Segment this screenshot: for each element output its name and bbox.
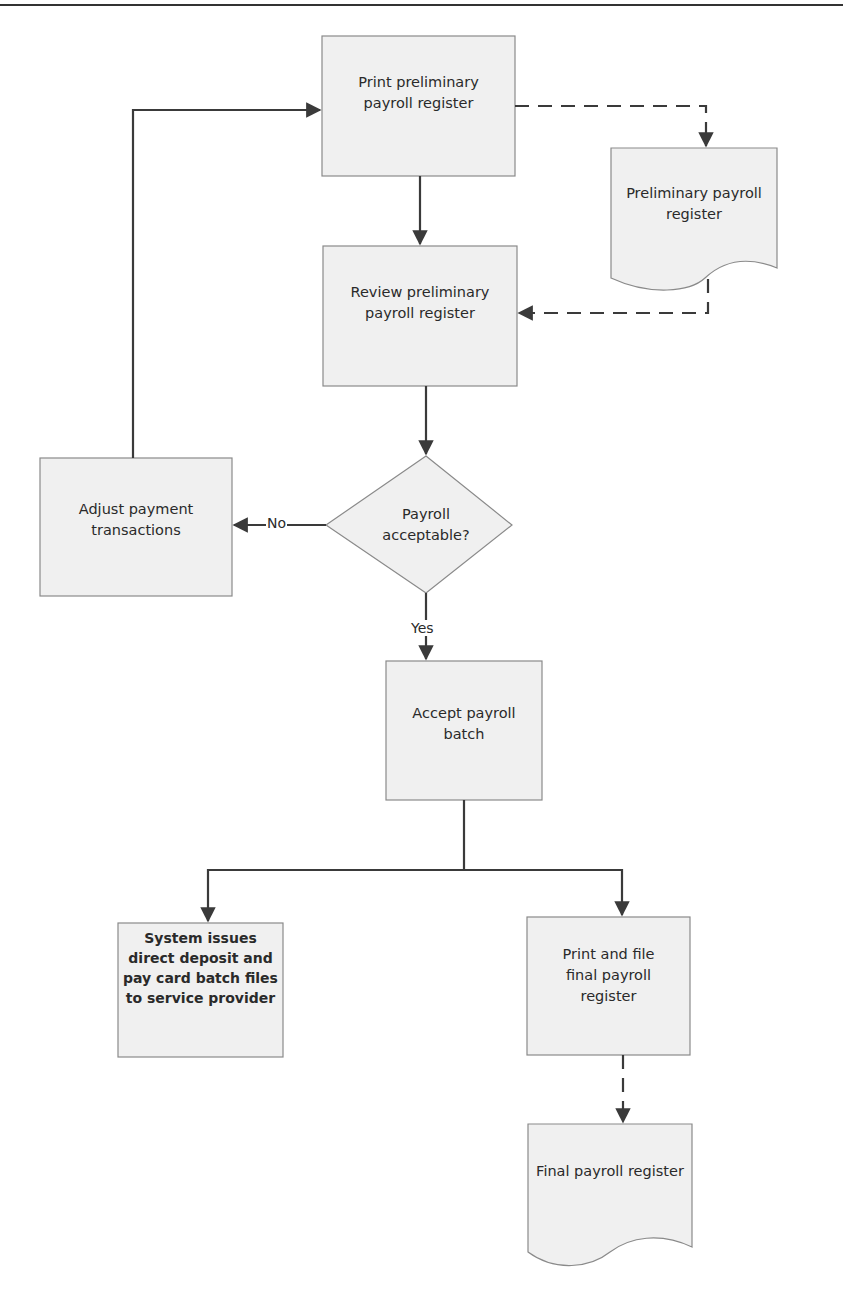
print-prelim-node: Print preliminary payroll register xyxy=(322,36,515,176)
edge-accept-split xyxy=(208,800,464,921)
adjust-node: Adjust payment transactions xyxy=(40,458,232,596)
adjust-label: Adjust payment transactions xyxy=(68,499,204,541)
print-final-node: Print and file final payroll register xyxy=(527,917,690,1055)
edge-label-yes: Yes xyxy=(410,620,435,636)
decision-node: Payroll acceptable? xyxy=(356,486,496,564)
edge-adjust-to-print xyxy=(133,110,320,458)
review-prelim-label: Review preliminary payroll register xyxy=(349,282,491,324)
review-prelim-node: Review preliminary payroll register xyxy=(323,246,517,386)
prelim-doc-node: Preliminary payroll register xyxy=(611,148,777,268)
accept-node: Accept payroll batch xyxy=(386,661,542,800)
final-doc-label: Final payroll register xyxy=(536,1161,684,1182)
print-prelim-label: Print preliminary payroll register xyxy=(346,72,491,114)
system-issues-node: System issues direct deposit and pay car… xyxy=(118,923,283,1057)
edge-print-to-prelim-doc xyxy=(515,106,706,146)
system-issues-label: System issues direct deposit and pay car… xyxy=(122,928,279,1008)
edge-accept-to-print-final xyxy=(464,870,622,915)
prelim-doc-label: Preliminary payroll register xyxy=(617,183,771,225)
accept-label: Accept payroll batch xyxy=(390,703,538,745)
decision-label: Payroll acceptable? xyxy=(374,504,478,546)
final-doc-node: Final payroll register xyxy=(528,1124,692,1234)
print-final-label: Print and file final payroll register xyxy=(545,944,672,1007)
edge-label-no: No xyxy=(266,515,287,531)
